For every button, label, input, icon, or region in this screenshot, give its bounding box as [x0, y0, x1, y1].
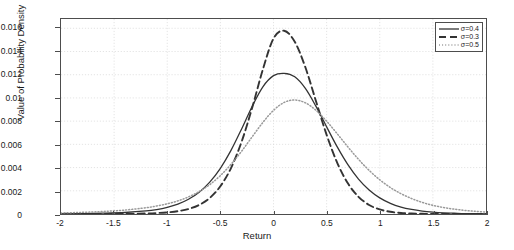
x-tick-label: 2: [485, 218, 490, 228]
x-tick-label: 0: [271, 218, 276, 228]
y-tick-mark: [55, 74, 60, 75]
x-tick-mark: [487, 211, 488, 215]
legend-item: σ=0.4: [438, 25, 479, 33]
x-tick-mark: [220, 211, 221, 215]
legend-label: σ=0.3: [460, 33, 479, 41]
y-tick-mark: [55, 121, 60, 122]
y-tick-mark: [55, 192, 60, 193]
series-line: [61, 31, 486, 214]
x-tick-mark: [167, 211, 168, 215]
series-line: [61, 73, 486, 214]
x-tick-label: -2: [56, 218, 64, 228]
x-tick-mark: [380, 211, 381, 215]
plot-area: σ=0.4σ=0.3σ=0.5: [60, 18, 487, 215]
x-tick-mark: [434, 211, 435, 215]
legend-line-sample: [438, 41, 460, 49]
y-tick-mark: [55, 215, 60, 216]
data-curves: [61, 19, 486, 214]
y-tick-mark: [55, 168, 60, 169]
x-tick-label: -1: [163, 218, 171, 228]
x-axis-title: Return: [0, 230, 514, 241]
legend-item: σ=0.5: [438, 41, 479, 49]
legend-line-sample: [438, 25, 460, 33]
y-axis-title: Value of Probability Density: [15, 0, 26, 153]
x-tick-mark: [113, 211, 114, 215]
x-tick-mark: [327, 211, 328, 215]
legend-line-sample: [438, 33, 460, 41]
x-tick-mark: [60, 211, 61, 215]
x-tick-label: 0.5: [321, 218, 333, 228]
y-tick-mark: [55, 51, 60, 52]
x-tick-label: -1.5: [106, 218, 121, 228]
series-line: [61, 100, 486, 213]
legend-label: σ=0.5: [460, 41, 479, 49]
chart-legend: σ=0.4σ=0.3σ=0.5: [435, 22, 483, 52]
y-tick-label: 0.004: [0, 163, 22, 173]
x-tick-label: 1: [378, 218, 383, 228]
legend-item: σ=0.3: [438, 33, 479, 41]
x-tick-label: -0.5: [213, 218, 228, 228]
y-tick-label: 0.002: [0, 187, 22, 197]
chart-figure: σ=0.4σ=0.3σ=0.5 00.0020.0040.0060.0080.0…: [0, 0, 514, 250]
y-tick-label: 0: [0, 210, 22, 220]
x-tick-mark: [274, 211, 275, 215]
y-tick-mark: [55, 98, 60, 99]
y-tick-mark: [55, 27, 60, 28]
legend-label: σ=0.4: [460, 25, 479, 33]
x-tick-label: 1.5: [428, 218, 440, 228]
y-tick-mark: [55, 145, 60, 146]
